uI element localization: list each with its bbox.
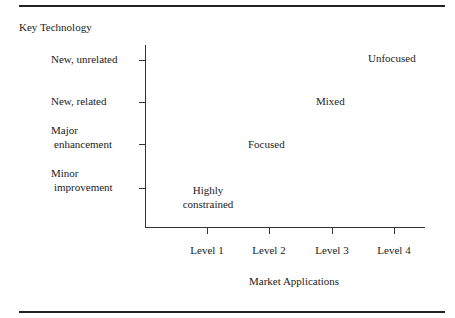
x-label-level-2: Level 2 bbox=[239, 244, 299, 256]
y-tick bbox=[139, 144, 145, 145]
x-tick bbox=[332, 228, 333, 234]
y-label-new-unrelated: New, unrelated bbox=[51, 53, 117, 66]
y-label-major-enhancement: Major enhancement bbox=[51, 123, 112, 151]
x-tick bbox=[394, 228, 395, 234]
bottom-rule bbox=[19, 311, 445, 313]
x-label-level-3: Level 3 bbox=[302, 244, 362, 256]
y-tick bbox=[139, 188, 145, 189]
x-label-level-1: Level 1 bbox=[177, 244, 237, 256]
region-focused: Focused bbox=[248, 138, 285, 151]
region-label-line: Highly bbox=[175, 183, 241, 197]
y-label-line: Minor bbox=[51, 166, 113, 180]
x-axis-title: Market Applications bbox=[249, 275, 339, 288]
region-unfocused: Unfocused bbox=[368, 52, 416, 65]
x-tick bbox=[269, 228, 270, 234]
x-axis-line bbox=[145, 227, 425, 228]
y-axis-line bbox=[145, 45, 146, 228]
y-tick bbox=[139, 60, 145, 61]
x-label-level-4: Level 4 bbox=[364, 244, 424, 256]
top-rule bbox=[19, 5, 445, 7]
y-label-new-related: New, related bbox=[51, 95, 106, 108]
y-label-minor-improvement: Minor improvement bbox=[51, 166, 113, 194]
y-axis-title: Key Technology bbox=[19, 21, 92, 34]
y-label-line: improvement bbox=[51, 180, 113, 194]
region-mixed: Mixed bbox=[316, 95, 345, 108]
x-tick bbox=[207, 228, 208, 234]
region-highly-constrained: Highly constrained bbox=[175, 183, 241, 211]
y-tick bbox=[139, 102, 145, 103]
y-label-line: Major bbox=[51, 123, 112, 137]
region-label-line: constrained bbox=[175, 197, 241, 211]
y-label-line: enhancement bbox=[51, 137, 112, 151]
